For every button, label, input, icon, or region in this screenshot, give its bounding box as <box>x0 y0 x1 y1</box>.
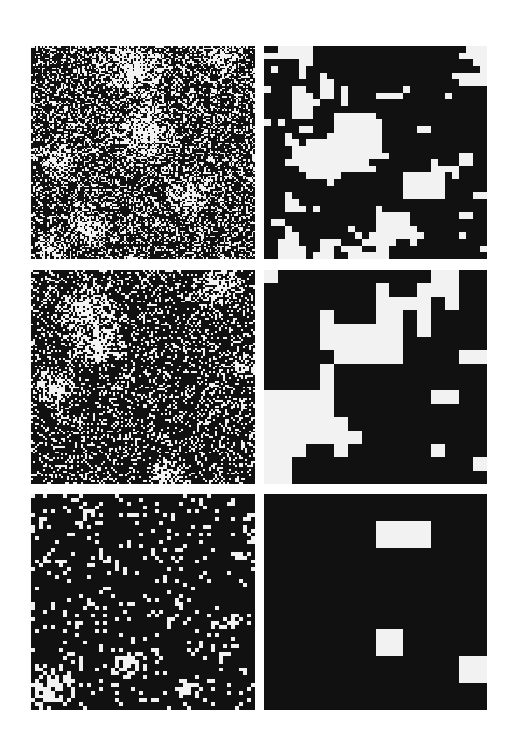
panel-middle-left <box>31 270 255 484</box>
panel-bottom-left-canvas <box>31 494 255 710</box>
panel-bottom-right-canvas <box>264 494 487 710</box>
lattice-figure <box>0 0 509 743</box>
panel-top-left <box>31 46 255 259</box>
panel-top-right-canvas <box>264 46 487 259</box>
panel-middle-right-canvas <box>264 270 487 484</box>
panel-top-right <box>264 46 487 259</box>
panel-bottom-left <box>31 494 255 710</box>
panel-top-left-canvas <box>31 46 255 259</box>
panel-middle-left-canvas <box>31 270 255 484</box>
panel-bottom-right <box>264 494 487 710</box>
panel-middle-right <box>264 270 487 484</box>
